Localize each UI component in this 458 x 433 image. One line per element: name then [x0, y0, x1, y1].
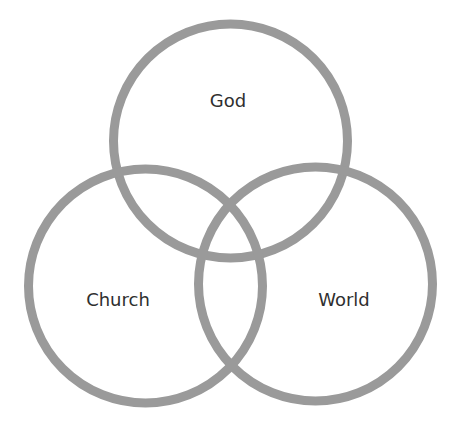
venn-diagram: God Church World	[0, 0, 458, 433]
label-church: Church	[86, 289, 150, 310]
label-world: World	[318, 289, 370, 310]
circle-world	[199, 167, 433, 401]
label-god: God	[210, 90, 246, 111]
circle-god	[114, 24, 348, 258]
